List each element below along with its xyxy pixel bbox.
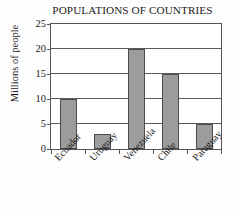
y-tick-label: 25 [36,19,47,30]
x-tick-mark [153,149,154,154]
bar-slot [85,24,119,149]
x-tick-mark [51,149,52,154]
x-tick-mark [119,149,120,154]
chart-title: POPULATIONS OF COUNTRIES [0,4,239,16]
y-tick-label: 20 [36,44,47,55]
bar-chile [162,74,179,149]
y-tick-label: 15 [36,69,47,80]
x-tick-mark [221,149,222,154]
bar-slot [51,24,85,149]
y-axis-title: Millions of people [9,14,20,114]
x-tick-mark [187,149,188,154]
y-tick-label: 0 [41,144,46,155]
bar-series [51,24,221,149]
y-tick-label: 5 [41,119,46,130]
x-tick-mark [85,149,86,154]
bar-slot [153,24,187,149]
y-tick-label: 10 [36,94,47,105]
chart-figure: POPULATIONS OF COUNTRIES Millions of peo… [0,0,239,209]
